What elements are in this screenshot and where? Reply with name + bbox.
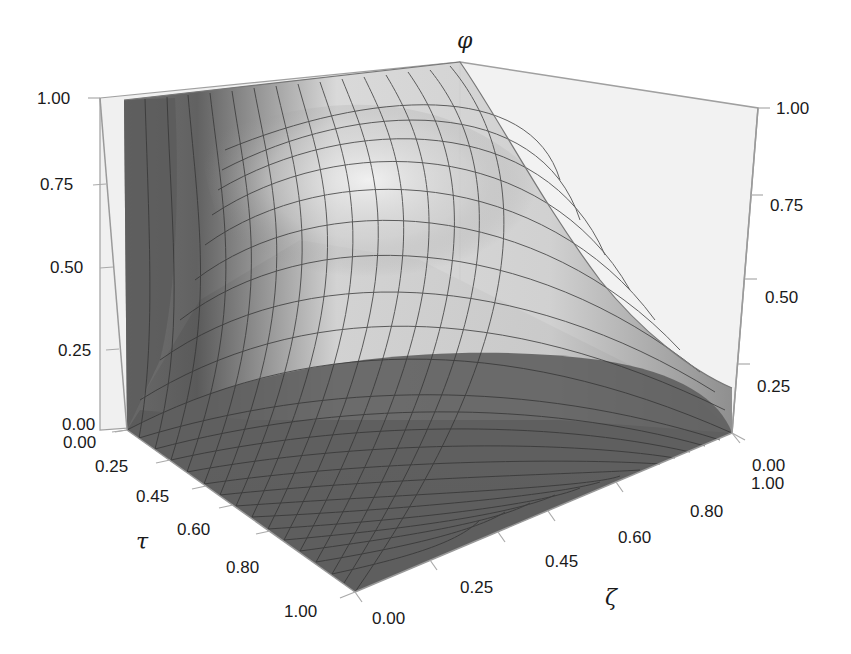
- zeta-tick-045: 0.45: [545, 553, 578, 570]
- tau-axis-title: τ: [136, 531, 148, 553]
- tau-tick-000: 0.00: [63, 434, 96, 451]
- z-left-tick-000: 0.00: [62, 416, 95, 433]
- phi-axis-title: φ: [457, 30, 472, 52]
- tau-tick-060: 0.60: [177, 521, 210, 538]
- tau-tick-045: 0.45: [136, 488, 169, 505]
- z-right-tick-075: 0.75: [770, 197, 803, 214]
- tau-tick-100: 1.00: [284, 603, 317, 620]
- tau-tick-080: 0.80: [226, 559, 259, 576]
- z-left-tick-100: 1.00: [37, 90, 70, 107]
- zeta-tick-060: 0.60: [618, 529, 651, 546]
- zeta-tick-100: 1.00: [751, 475, 784, 492]
- zeta-axis-title: ζ: [605, 587, 617, 609]
- z-left-tick-050: 0.50: [50, 259, 83, 276]
- z-right-tick-000: 0.00: [752, 457, 785, 474]
- z-left-tick-025: 0.25: [58, 342, 91, 359]
- z-right-tick-050: 0.50: [765, 289, 798, 306]
- zeta-tick-000: 0.00: [372, 610, 405, 627]
- tau-tick-025: 0.25: [95, 458, 128, 475]
- z-left-tick-075: 0.75: [40, 176, 73, 193]
- zeta-tick-080: 0.80: [690, 503, 723, 520]
- z-right-tick-025: 0.25: [757, 378, 790, 395]
- z-right-tick-100: 1.00: [776, 100, 809, 117]
- zeta-tick-025: 0.25: [460, 579, 493, 596]
- surface-plot: [0, 0, 851, 654]
